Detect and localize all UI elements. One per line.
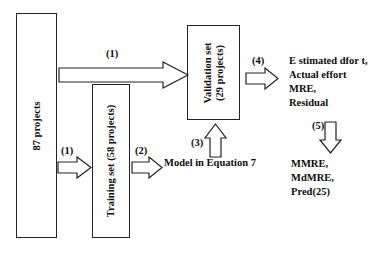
arrow-split-to-validation-icon [59,62,189,88]
box-all-projects-label: 87 projects [31,101,43,150]
box-training-set: Training set (58 projects) [92,84,130,238]
arrow-model-to-validation-icon [205,124,226,158]
arrow-validation-to-metrics-icon [246,68,279,89]
arrow-label-3: (3) [191,137,203,148]
arrow-split-to-training-icon [58,157,92,178]
box-training-set-label: Training set (58 projects) [105,105,117,217]
arrow-label-1-training: (1) [61,145,73,156]
arrow-label-1-validation: (1) [106,48,118,59]
box-validation-set: Validation set (29 projects) [187,25,240,120]
arrow-label-5: (5) [312,120,324,131]
diagram-canvas: 87 projects Training set (58 projects) V… [0,0,385,256]
box-validation-set-label: Validation set (29 projects) [202,42,226,103]
text-model-equation: Model in Equation 7 [164,156,256,170]
arrow-label-2: (2) [135,145,147,156]
text-metrics-raw-outputs: E stimated dfor t, Actual effort MRE, Re… [289,54,368,110]
arrow-training-to-model-icon [132,157,163,178]
text-metrics-aggregate-outputs: MMRE, MdMRE, Pred(25) [291,157,334,199]
arrow-label-4: (4) [252,55,264,66]
box-all-projects: 87 projects [16,13,57,238]
